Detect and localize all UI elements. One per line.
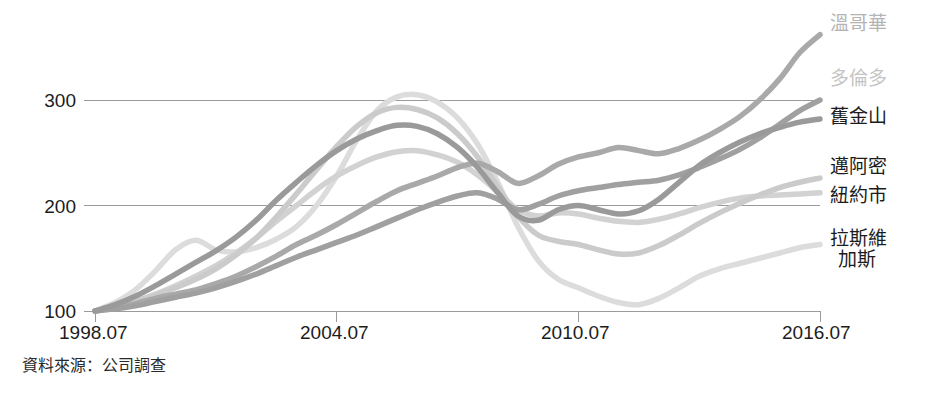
x-axis-label-2010: 2010.07 — [541, 322, 610, 344]
legend-item-toronto: 多倫多 — [830, 68, 887, 89]
axis-ticks — [95, 311, 820, 322]
legend-item-las-vegas-line2: 加斯 — [830, 249, 887, 270]
line-chart: 300 200 100 1998.07 2004.07 2010.07 2016… — [0, 0, 926, 396]
source-note: 資料來源：公司調查 — [22, 352, 166, 376]
x-axis-label-2016: 2016.07 — [782, 322, 851, 344]
x-axis-label-2004: 2004.07 — [300, 322, 369, 344]
x-axis-label-1998: 1998.07 — [59, 322, 128, 344]
legend-item-new-york: 紐約市 — [830, 185, 887, 206]
legend-item-san-francisco: 舊金山 — [830, 106, 887, 127]
y-axis-label-100: 100 — [18, 301, 76, 323]
y-axis-label-200: 200 — [18, 196, 76, 218]
legend-item-las-vegas-line1: 拉斯維 — [830, 227, 887, 249]
legend-item-vancouver: 溫哥華 — [830, 13, 887, 34]
legend-item-miami: 邁阿密 — [830, 156, 887, 177]
y-axis-label-300: 300 — [18, 90, 76, 112]
series-line-miami — [95, 107, 820, 311]
legend-item-las-vegas: 拉斯維 加斯 — [830, 228, 887, 271]
series-lines — [95, 35, 820, 311]
